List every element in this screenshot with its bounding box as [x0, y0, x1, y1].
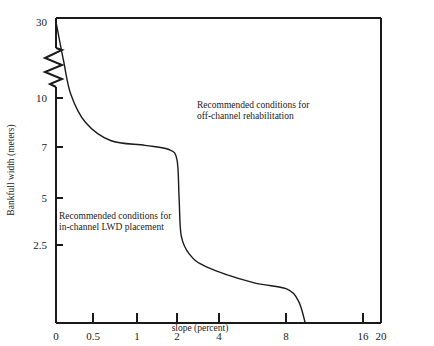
annotation-in-channel: Recommended conditions forin-channel LWD… [59, 211, 172, 232]
annotation-line: off-channel rehabilitation [197, 111, 294, 121]
annotation-line: in-channel LWD placement [59, 222, 164, 232]
annotation-off-channel: Recommended conditions foroff-channel re… [197, 100, 310, 121]
chart: 00.5124816202.5571030 Recommended condit… [0, 0, 434, 346]
series-line-boundary [56, 22, 305, 323]
annotation-line: Recommended conditions for [197, 100, 310, 110]
y-axis-break-zigzag [45, 48, 62, 87]
x-tick-label: 0 [53, 330, 59, 342]
axis-tick-labels: 00.5124816202.5571030 [33, 16, 387, 342]
y-tick-label: 7 [42, 141, 48, 153]
series-group [56, 22, 305, 323]
x-tick-label: 16 [358, 330, 370, 342]
y-tick-label: 30 [36, 16, 48, 28]
x-tick-label: 20 [376, 330, 388, 342]
x-tick-label: 8 [283, 330, 289, 342]
y-tick-label: 2.5 [33, 239, 47, 251]
y-tick-label: 10 [36, 92, 48, 104]
x-tick-label: 0.5 [86, 330, 100, 342]
x-tick-label: 1 [134, 330, 140, 342]
annotation-line: Recommended conditions for [59, 211, 172, 221]
y-tick-label: 5 [42, 192, 48, 204]
annotations: Recommended conditions foroff-channel re… [59, 100, 310, 232]
y-axis-title: Bankfull width (meters) [6, 124, 17, 215]
x-axis-title: slope (percent) [172, 323, 229, 334]
plot-frame [45, 18, 381, 323]
